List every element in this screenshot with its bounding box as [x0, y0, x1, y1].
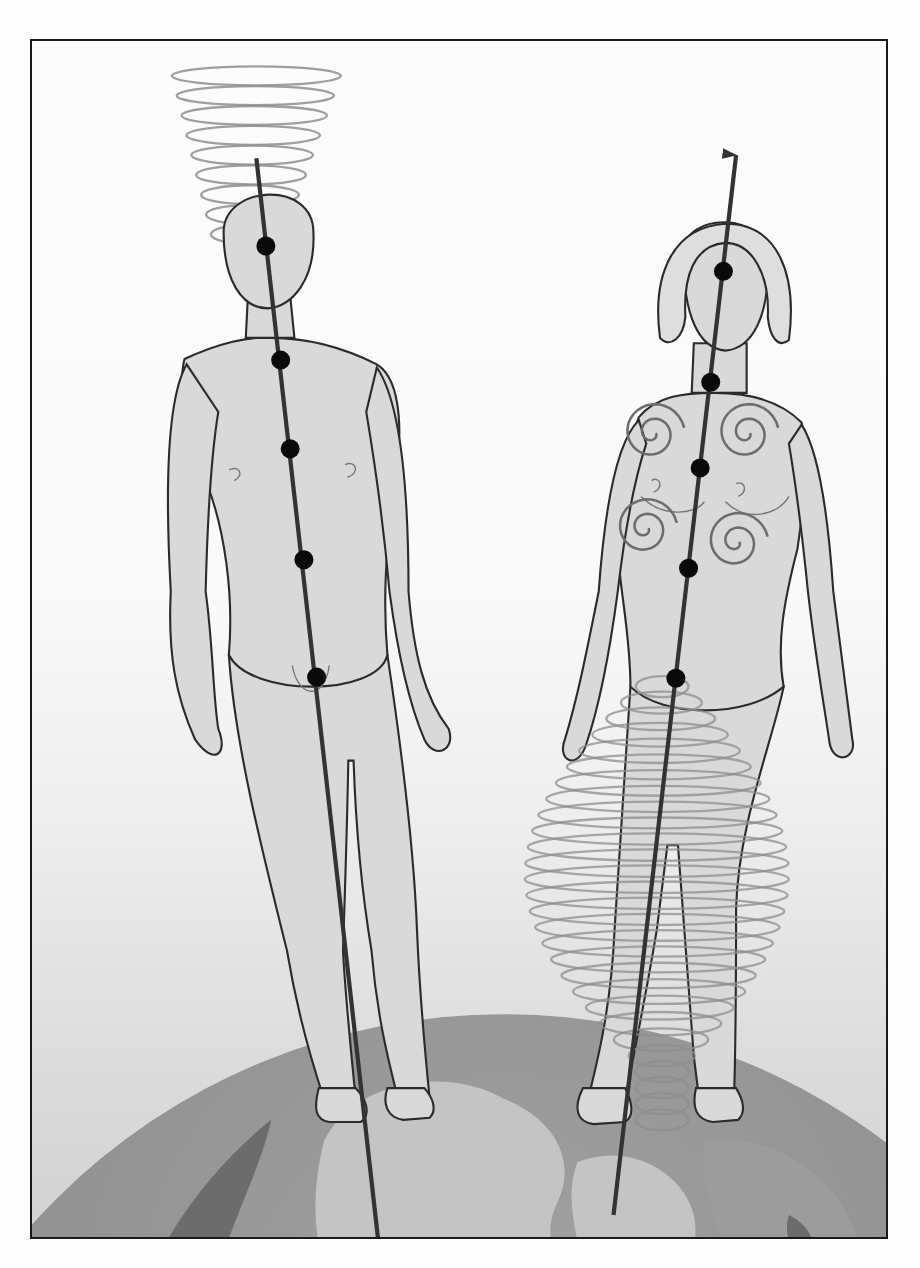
vortex-ring: [172, 66, 341, 85]
energy-center-dot: [701, 373, 720, 392]
energy-center-dot: [679, 559, 698, 578]
female-figure: [563, 222, 853, 1124]
energy-center-dot: [714, 262, 733, 281]
energy-center-dot: [271, 351, 290, 370]
vortex-ring: [196, 165, 306, 184]
illustration-frame: [30, 39, 888, 1239]
energy-center-dot: [666, 669, 685, 688]
vortex-ring: [191, 146, 313, 165]
vortex-ring: [542, 930, 773, 956]
foot: [385, 1088, 433, 1120]
right-arm: [789, 425, 853, 758]
foot: [316, 1088, 367, 1122]
energy-center-dot: [256, 236, 275, 255]
energy-center-dot: [281, 439, 300, 458]
globe: [32, 1014, 888, 1239]
vortex-ring: [182, 106, 327, 125]
vortex-ring: [186, 126, 319, 145]
left-arm: [168, 364, 222, 754]
torso: [182, 338, 399, 687]
vortex-ring: [177, 86, 334, 105]
male-figure: [168, 195, 450, 1122]
energy-center-dot: [691, 458, 710, 477]
energy-axis-illustration: [32, 41, 888, 1239]
legs: [229, 655, 430, 1099]
foot: [694, 1088, 743, 1122]
energy-center-dot: [294, 550, 313, 569]
energy-center-dot: [307, 668, 326, 687]
